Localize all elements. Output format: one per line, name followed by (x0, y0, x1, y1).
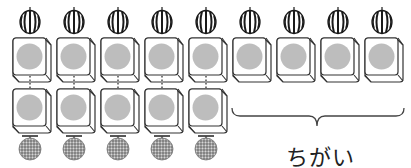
top-box (321, 38, 359, 82)
melon-icon (151, 136, 173, 160)
bottom-box (101, 89, 139, 133)
top-box (145, 38, 183, 82)
watermelon-icon (196, 7, 216, 34)
bottom-box (145, 89, 183, 133)
melon-icon (19, 136, 41, 160)
watermelon-icon (152, 7, 172, 34)
watermelon-icon (20, 7, 40, 34)
top-box (233, 38, 271, 82)
watermelon-icon (328, 7, 348, 34)
watermelon-icon (240, 7, 260, 34)
top-box (189, 38, 227, 82)
top-box (13, 38, 51, 82)
watermelon-icon (372, 7, 392, 34)
melon-icon (63, 136, 85, 160)
difference-brace (232, 108, 404, 126)
bottom-box (189, 89, 227, 133)
diagram: ちがい (0, 0, 411, 168)
melon-icon (195, 136, 217, 160)
top-box (365, 38, 403, 82)
top-box (277, 38, 315, 82)
bottom-box (57, 89, 95, 133)
top-box (57, 38, 95, 82)
watermelon-icon (64, 7, 84, 34)
difference-label: ちがい (270, 139, 370, 168)
melon-icon (107, 136, 129, 160)
watermelon-icon (108, 7, 128, 34)
top-box (101, 38, 139, 82)
bottom-box (13, 89, 51, 133)
watermelon-icon (284, 7, 304, 34)
